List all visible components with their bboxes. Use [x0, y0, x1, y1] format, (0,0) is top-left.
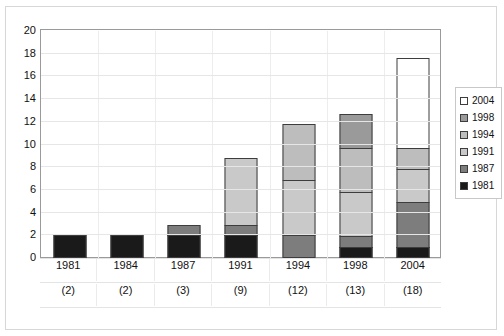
- bar-segment-1991-1991[interactable]: [225, 158, 258, 226]
- legend-item-1987[interactable]: 1987: [460, 160, 498, 177]
- x-axis-count-2004: (18): [385, 284, 441, 306]
- legend-swatch-1991: [460, 148, 468, 156]
- legend-label-1991: 1991: [472, 147, 494, 157]
- x-axis-sublabel-row: (2)(2)(3)(9)(12)(13)(18): [40, 284, 441, 306]
- y-tick-label-6: 6: [6, 184, 36, 195]
- bar-segment-1981-1981[interactable]: [54, 235, 87, 258]
- x-axis-count-1998: (13): [327, 284, 384, 306]
- bar-column-2004[interactable]: [385, 31, 441, 258]
- bar-column-1994[interactable]: [271, 31, 328, 258]
- x-axis-count-1981: (2): [40, 284, 97, 306]
- gridline-8: [41, 166, 440, 167]
- y-tick-label-20: 20: [6, 25, 36, 36]
- legend-item-1991[interactable]: 1991: [460, 143, 498, 160]
- bar-segment-1994-1987[interactable]: [282, 235, 315, 258]
- gridline-6: [41, 189, 440, 190]
- x-axis-count-1987: (3): [155, 284, 212, 306]
- x-axis-label-1981: 1981: [40, 259, 97, 281]
- x-axis-separator-mid: [40, 282, 441, 283]
- y-axis-labels: 20181614121086420: [6, 29, 36, 258]
- gridline-16: [41, 75, 440, 76]
- x-axis-label-1994: 1994: [270, 259, 327, 281]
- cropped-caption: [0, 0, 504, 5]
- bar-column-1981[interactable]: [42, 31, 99, 258]
- legend-label-1994: 1994: [472, 130, 494, 140]
- x-axis-category-row: 1981198419871991199419982004: [40, 259, 441, 281]
- legend-item-2004[interactable]: 2004: [460, 92, 498, 109]
- stacked-bar-1981[interactable]: [54, 235, 87, 258]
- bar-segment-1994-1994[interactable]: [282, 124, 315, 181]
- bar-segment-1984-1981[interactable]: [111, 235, 144, 258]
- stacked-bar-1998[interactable]: [339, 114, 372, 258]
- gridline-2: [41, 234, 440, 235]
- x-axis-count-1984: (2): [97, 284, 154, 306]
- y-tick-label-14: 14: [6, 93, 36, 104]
- y-tick-label-8: 8: [6, 161, 36, 172]
- bar-column-1987[interactable]: [156, 31, 213, 258]
- x-axis-label-1991: 1991: [212, 259, 269, 281]
- legend-item-1998[interactable]: 1998: [460, 109, 498, 126]
- bar-segment-2004-1987[interactable]: [396, 202, 429, 247]
- y-tick-label-16: 16: [6, 70, 36, 81]
- plot-wrapper: 20181614121086420: [40, 29, 441, 276]
- legend-label-2004: 2004: [472, 96, 494, 106]
- legend-swatch-2004: [460, 97, 468, 105]
- stacked-bar-1987[interactable]: [168, 225, 201, 258]
- x-axis-count-1991: (9): [212, 284, 269, 306]
- gridline-18: [41, 53, 440, 54]
- gridline-10: [41, 144, 440, 145]
- bar-segment-2004-1981[interactable]: [396, 247, 429, 258]
- x-axis-count-1994: (12): [270, 284, 327, 306]
- stacked-bar-2004[interactable]: [396, 58, 429, 258]
- y-tick-label-4: 4: [6, 207, 36, 218]
- bar-segment-1998-1991[interactable]: [339, 192, 372, 237]
- stacked-bar-1991[interactable]: [225, 158, 258, 258]
- chart-outer-frame: 20181614121086420 1981198419871991199419…: [5, 6, 497, 330]
- legend-label-1981: 1981: [472, 181, 494, 191]
- x-axis-label-1984: 1984: [97, 259, 154, 281]
- bar-segment-2004-2004[interactable]: [396, 58, 429, 149]
- y-tick-label-12: 12: [6, 116, 36, 127]
- bar-column-1998[interactable]: [328, 31, 385, 258]
- stacked-bar-1984[interactable]: [111, 235, 144, 258]
- plot-area: [40, 29, 441, 258]
- bar-columns: [42, 31, 441, 258]
- bar-segment-1998-1981[interactable]: [339, 247, 372, 258]
- y-tick-label-18: 18: [6, 48, 36, 59]
- y-tick-label-0: 0: [6, 252, 36, 263]
- bar-column-1991[interactable]: [213, 31, 270, 258]
- bar-segment-1987-1981[interactable]: [168, 235, 201, 258]
- legend-item-1994[interactable]: 1994: [460, 126, 498, 143]
- legend-label-1998: 1998: [472, 113, 494, 123]
- bar-segment-1998-1994[interactable]: [339, 148, 372, 193]
- x-axis-label-2004: 2004: [385, 259, 441, 281]
- bar-column-1984[interactable]: [99, 31, 156, 258]
- legend-label-1987: 1987: [472, 164, 494, 174]
- gridline-12: [41, 121, 440, 122]
- chart-page: 20181614121086420 1981198419871991199419…: [0, 0, 504, 336]
- legend-swatch-1998: [460, 114, 468, 122]
- gridline-14: [41, 98, 440, 99]
- chart-legend: 200419981994199119871981: [455, 87, 502, 199]
- y-tick-label-2: 2: [6, 229, 36, 240]
- x-axis-separator-bottom: [40, 307, 441, 308]
- gridline-4: [41, 212, 440, 213]
- legend-swatch-1981: [460, 182, 468, 190]
- x-axis-label-1987: 1987: [155, 259, 212, 281]
- x-axis-label-1998: 1998: [327, 259, 384, 281]
- y-tick-label-10: 10: [6, 139, 36, 150]
- legend-swatch-1994: [460, 131, 468, 139]
- legend-swatch-1987: [460, 165, 468, 173]
- bar-segment-1991-1981[interactable]: [225, 235, 258, 258]
- bar-segment-2004-1991[interactable]: [396, 169, 429, 203]
- legend-item-1981[interactable]: 1981: [460, 177, 498, 194]
